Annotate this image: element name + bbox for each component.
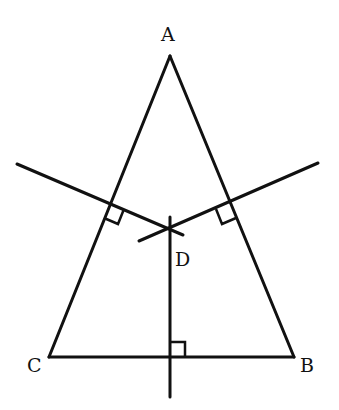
right-angle-mark-cb xyxy=(170,342,185,357)
geometry-diagram: A B C D xyxy=(0,0,339,410)
label-b: B xyxy=(300,354,314,376)
label-d: D xyxy=(175,248,190,270)
bisector-ac xyxy=(17,164,183,235)
bisector-ab xyxy=(139,163,318,241)
label-c: C xyxy=(27,354,42,376)
side-ab xyxy=(170,56,294,357)
side-ac xyxy=(49,56,170,357)
label-a: A xyxy=(160,23,175,45)
